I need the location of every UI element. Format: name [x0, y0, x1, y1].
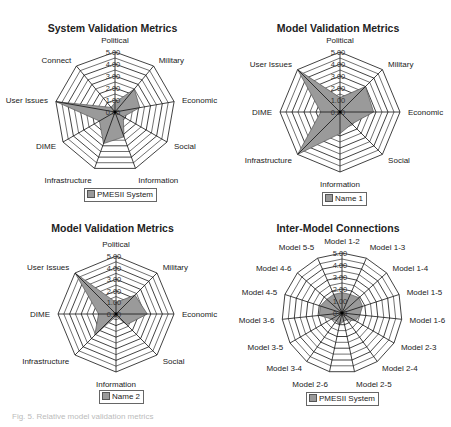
tick-label: 1.00: [331, 96, 346, 105]
axis-label: Political: [101, 36, 129, 45]
legend-label: Name 1: [335, 194, 363, 203]
axis-label: User Issues: [6, 96, 48, 105]
axis-label: Infrastructure: [245, 156, 293, 165]
axis-spoke: [342, 273, 387, 313]
center-point: [114, 312, 117, 315]
tick-label: 1.00: [106, 96, 121, 105]
chart-model-validation-1: Model Validation Metrics 0.001.002.003.0…: [225, 0, 451, 210]
axis-label: Infrastructure: [45, 176, 93, 185]
axis-label: Model 3-4: [266, 364, 302, 373]
center-point: [340, 311, 343, 314]
axis-label: Model 2-6: [292, 380, 328, 389]
axis-label: Connect: [42, 56, 73, 65]
tick-label: 3.00: [331, 72, 346, 81]
axis-label: Information: [138, 176, 178, 185]
tick-label: 1.00: [333, 297, 348, 306]
axis-label: Economic: [182, 96, 217, 105]
axis-label: Model 2-3: [401, 343, 437, 352]
legend: PMESII System: [84, 188, 157, 202]
axis-label: Infrastructure: [22, 357, 70, 366]
axis-label: Model 1-3: [370, 243, 406, 252]
legend-label: Name 2: [112, 392, 140, 401]
axis-label: DIME: [252, 108, 272, 117]
tick-label: 0.00: [331, 108, 346, 117]
tick-label: 3.00: [333, 273, 348, 282]
axis-label: Model 4-5: [242, 288, 278, 297]
axis-label: Model 1-5: [407, 288, 443, 297]
legend-label: PMESII System: [97, 190, 153, 199]
axis-label: Military: [163, 263, 188, 272]
tick-label: 4.00: [107, 264, 122, 273]
legend: Name 1: [322, 192, 367, 206]
axis-label: Information: [320, 180, 360, 189]
radar-plot: 0.001.002.003.004.005.00Model 1-2Model 1…: [225, 210, 451, 410]
axis-label: Model 2-5: [356, 380, 392, 389]
tick-label: 4.00: [106, 60, 121, 69]
center-point: [338, 110, 341, 113]
tick-label: 2.00: [333, 285, 348, 294]
axis-label: Social: [388, 156, 410, 165]
axis-label: Model 3-6: [239, 316, 275, 325]
tick-label: 5.00: [107, 252, 122, 261]
legend-swatch-icon: [102, 392, 110, 400]
legend-swatch-icon: [309, 394, 317, 402]
tick-label: 5.00: [331, 48, 346, 57]
tick-label: 0.00: [106, 108, 121, 117]
legend-swatch-icon: [325, 194, 333, 202]
axis-label: Economic: [182, 310, 217, 319]
axis-label: DIME: [30, 310, 50, 319]
axis-label: DIME: [36, 142, 56, 151]
tick-label: 4.00: [331, 60, 346, 69]
tick-label: 2.00: [331, 84, 346, 93]
figure-caption: Fig. 5. Relative model validation metric…: [12, 412, 153, 421]
axis-label: User Issues: [27, 263, 69, 272]
axis-label: Political: [102, 240, 130, 249]
axis-label: Model 1-6: [410, 316, 446, 325]
axis-label: Model 1-2: [324, 237, 360, 246]
axis-label: Military: [388, 60, 413, 69]
axis-label: User Issues: [250, 60, 292, 69]
tick-label: 0.00: [333, 309, 348, 318]
radar-plot: 0.001.002.003.004.005.00PoliticalMilitar…: [225, 0, 451, 210]
axis-label: Information: [96, 380, 136, 389]
tick-label: 5.00: [106, 48, 121, 57]
tick-label: 2.00: [107, 287, 122, 296]
tick-label: 3.00: [107, 275, 122, 284]
axis-label: Social: [174, 142, 196, 151]
axis-label: Model 4-6: [256, 264, 292, 273]
tick-label: 5.00: [333, 249, 348, 258]
center-point: [113, 110, 116, 113]
tick-label: 3.00: [106, 72, 121, 81]
chart-system-validation: System Validation Metrics 0.001.002.003.…: [0, 0, 225, 210]
axis-label: Economic: [408, 108, 443, 117]
axis-label: Model 5-5: [279, 243, 315, 252]
tick-label: 2.00: [106, 84, 121, 93]
axis-label: Military: [159, 56, 184, 65]
legend: Name 2: [99, 390, 144, 404]
tick-label: 1.00: [107, 298, 122, 307]
legend-swatch-icon: [87, 190, 95, 198]
axis-label: Model 2-4: [382, 364, 418, 373]
radar-plot: 0.001.002.003.004.005.00PoliticalMilitar…: [0, 0, 225, 210]
axis-label: Model 1-4: [393, 264, 429, 273]
axis-label: Model 3-5: [248, 343, 284, 352]
tick-label: 0.00: [107, 310, 122, 319]
radar-plot: 0.001.002.003.004.005.00PoliticalMilitar…: [0, 210, 225, 410]
legend: PMESII System: [306, 392, 379, 406]
legend-label: PMESII System: [319, 394, 375, 403]
axis-label: Political: [326, 36, 354, 45]
axis-label: Social: [163, 357, 185, 366]
chart-inter-model-connections: Inter-Model Connections 0.001.002.003.00…: [225, 210, 451, 410]
tick-label: 4.00: [333, 261, 348, 270]
chart-model-validation-2: Model Validation Metrics 0.001.002.003.0…: [0, 210, 225, 410]
